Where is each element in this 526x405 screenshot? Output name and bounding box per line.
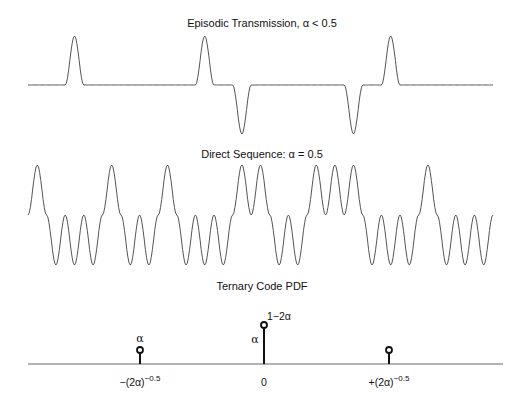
tick-label-right: +(2α)−0.5 — [369, 374, 410, 388]
pdf-stem-right — [386, 347, 392, 364]
direct-sequence-waveform — [28, 165, 493, 265]
tick-label-left: −(2α)−0.5 — [120, 374, 161, 388]
top-panel-title: Episodic Transmission, α < 0.5 — [187, 17, 337, 29]
left-prob-label: α — [136, 332, 144, 345]
center-prob-label: 1−2α — [267, 310, 291, 322]
bottom-panel-title: Ternary Code PDF — [216, 280, 307, 292]
pdf-stem-center — [261, 322, 267, 364]
pdf-stem-left — [137, 347, 143, 364]
middle-panel-title: Direct Sequence: α = 0.5 — [201, 148, 323, 160]
tick-label-center: 0 — [261, 376, 267, 388]
episodic-waveform — [28, 36, 493, 134]
figure: Episodic Transmission, α < 0.5 Direct Se… — [0, 0, 526, 405]
center-alpha-label: α — [251, 333, 259, 346]
